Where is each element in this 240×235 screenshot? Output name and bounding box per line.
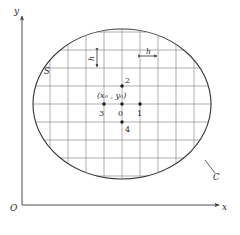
origin-label: O xyxy=(10,203,17,213)
stencil-label-4: 4 xyxy=(125,125,130,134)
stencil-label-3: 3 xyxy=(99,109,104,118)
stencil-point-3 xyxy=(102,102,105,105)
x-axis-label: x xyxy=(222,202,227,212)
stencil-label-1: 1 xyxy=(137,109,142,118)
figure-canvas: y x O S C h h (x₀ , y₀) 0 1 2 3 4 xyxy=(0,0,240,235)
stencil-label-0: 0 xyxy=(118,109,123,118)
stencil-point-4 xyxy=(120,120,123,123)
horizontal-spacing-label: h xyxy=(146,47,151,56)
stencil-label-2: 2 xyxy=(125,76,130,85)
region-boundary-label: C xyxy=(213,172,220,182)
region-interior-label: S xyxy=(44,66,50,76)
stencil-center-coordinate-label: (x₀ , y₀) xyxy=(97,91,126,100)
stencil-point-2 xyxy=(120,84,123,87)
stencil-point-1 xyxy=(138,102,141,105)
y-axis-label: y xyxy=(14,6,19,16)
vertical-spacing-label: h xyxy=(87,56,96,61)
stencil-point-0 xyxy=(120,102,123,105)
